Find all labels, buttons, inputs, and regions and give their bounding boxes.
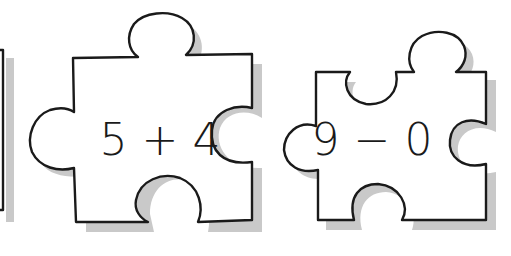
- puzzle-canvas: 5 + 4 9 − 0: [0, 0, 511, 256]
- expression-text: 5 + 4: [100, 114, 221, 165]
- puzzle-piece-partial-left: [0, 50, 14, 222]
- puzzle-piece-1: 5 + 4: [30, 13, 262, 232]
- expression-text: 9 − 0: [312, 114, 433, 165]
- puzzle-worksheet: 5 + 4 9 − 0: [0, 0, 511, 256]
- piece-shadow: [6, 58, 14, 222]
- piece-outline: [0, 50, 3, 210]
- puzzle-piece-2: 9 − 0: [284, 32, 496, 230]
